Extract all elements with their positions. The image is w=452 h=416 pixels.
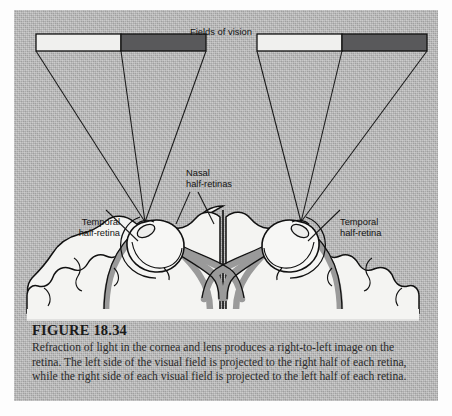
ray-right-middle xyxy=(301,51,342,222)
label-nasal-half-retinas: Nasal half-retinas xyxy=(186,168,232,189)
label-temporal-half-retina-left: Temporal half-retina xyxy=(54,217,120,238)
figure-panel: Fields of vision Nasal half-retinas Temp… xyxy=(14,10,438,401)
ray-right-outer xyxy=(301,51,427,222)
right-bar-dark-segment xyxy=(342,34,427,51)
right-eye-field-of-vision-bar xyxy=(257,34,427,51)
figure-caption-block: FIGURE 18.34 Refraction of light in the … xyxy=(32,322,426,385)
left-eye-field-of-vision-bar xyxy=(36,34,206,51)
label-fields-of-vision: Fields of vision xyxy=(190,27,252,38)
figure-container: Fields of vision Nasal half-retinas Temp… xyxy=(0,0,452,416)
ray-right-inner xyxy=(257,51,301,222)
leader-nasal-left xyxy=(176,192,190,224)
right-bar-light-segment xyxy=(257,34,342,51)
figure-number: FIGURE 18.34 xyxy=(32,322,426,339)
label-temporal-half-retina-right: Temporal half-retina xyxy=(340,217,381,238)
right-eye-globe xyxy=(262,220,319,272)
left-bar-light-segment xyxy=(36,34,121,51)
light-rays xyxy=(36,51,427,222)
ray-left-outer xyxy=(36,51,145,222)
brain-base-band xyxy=(27,309,419,321)
ray-left-middle xyxy=(121,51,145,222)
left-eye-globe xyxy=(127,220,184,272)
figure-caption-text: Refraction of light in the cornea and le… xyxy=(32,341,426,385)
ray-left-inner xyxy=(145,51,206,222)
